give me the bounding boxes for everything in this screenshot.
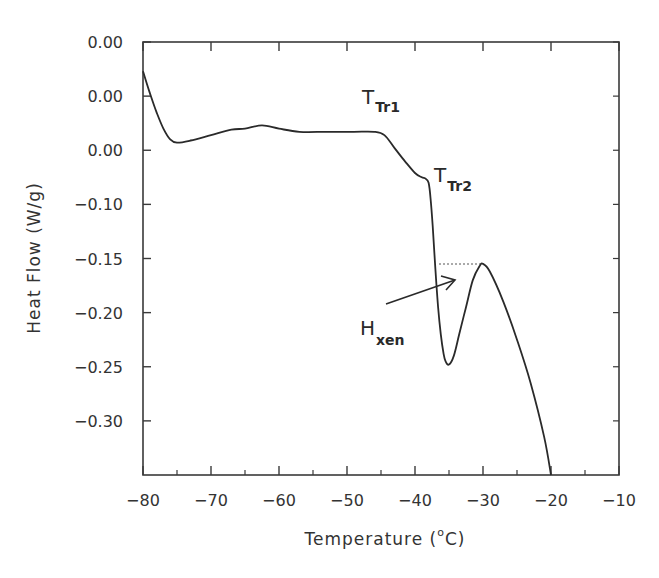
y-tick-label: −0.25 <box>74 358 123 377</box>
x-tick-label: −30 <box>466 491 500 510</box>
chart-canvas: 0.000.000.00−0.10−0.15−0.20−0.25−0.30 −8… <box>0 0 659 578</box>
x-axis-tick-labels: −80−70−60−50−40−30−20−10 <box>126 491 636 510</box>
x-tick-label: −50 <box>330 491 364 510</box>
y-tick-label: −0.15 <box>74 250 123 269</box>
x-tick-label: −10 <box>602 491 636 510</box>
x-axis-title: Temperature (oC) <box>304 526 466 549</box>
x-tick-label: −20 <box>534 491 568 510</box>
y-tick-label: 0.00 <box>87 87 123 106</box>
x-tick-label: −70 <box>194 491 228 510</box>
heat-flow-curve <box>143 71 551 475</box>
y-tick-label: 0.00 <box>87 33 123 52</box>
x-tick-label: −40 <box>398 491 432 510</box>
ttr2-label: TTr2 <box>433 163 472 194</box>
ttr1-label: TTr1 <box>361 85 400 115</box>
y-axis-title: Heat Flow (W/g) <box>24 182 44 334</box>
hxen-label: Hxen <box>360 316 405 348</box>
y-tick-label: −0.10 <box>74 195 123 214</box>
x-tick-label: −80 <box>126 491 160 510</box>
y-tick-label: −0.20 <box>74 304 123 323</box>
x-tick-label: −60 <box>262 491 296 510</box>
y-axis-tick-labels: 0.000.000.00−0.10−0.15−0.20−0.25−0.30 <box>74 33 123 431</box>
y-tick-label: −0.30 <box>74 412 123 431</box>
y-tick-label: 0.00 <box>87 141 123 160</box>
arrow-icon <box>386 276 455 304</box>
